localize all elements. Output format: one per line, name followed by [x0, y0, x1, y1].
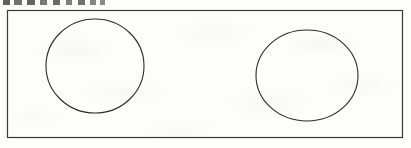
figure-diagram: [0, 0, 411, 148]
left-circle: [46, 19, 144, 113]
outer-rectangle: [8, 11, 403, 138]
right-circle: [256, 30, 358, 121]
scanned-page: [0, 0, 411, 148]
